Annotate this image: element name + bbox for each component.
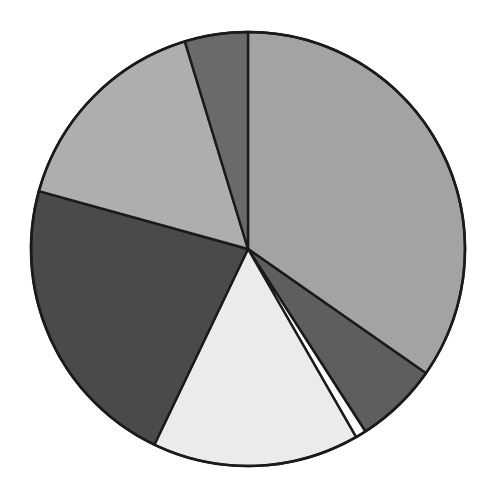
pie-chart — [0, 0, 496, 496]
pie-slices — [31, 32, 465, 466]
